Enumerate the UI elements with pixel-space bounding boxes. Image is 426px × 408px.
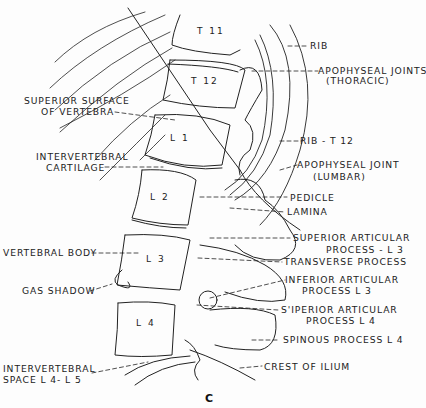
vertebra-label-l4: L 4 <box>136 318 156 328</box>
vertebra-label-t12: T 12 <box>191 76 219 86</box>
label-superior-articular-l4-1: S'IPERIOR ARTICULAR <box>281 305 398 315</box>
vertebra-label-t11: T 11 <box>197 26 225 36</box>
vertebra-label-l3: L 3 <box>146 254 166 264</box>
label-intervertebral-space-2: SPACE L 4- L 5 <box>3 375 82 385</box>
spine-diagram: T 11 T 12 L 1 L 2 L 3 L 4 RIB APOPHYSEAL… <box>0 0 426 408</box>
label-rib-t12: RIB - T 12 <box>300 136 354 146</box>
label-rib: RIB <box>310 41 328 51</box>
label-superior-articular-l3-1: SUPERIOR ARTICULAR <box>293 233 410 243</box>
vertebra-label-l2: L 2 <box>150 192 170 202</box>
label-superior-articular-l4-2: PROCESS L 4 <box>306 316 376 326</box>
label-apophyseal-lumbar-1: APOPHYSEAL JOINT <box>297 160 400 170</box>
label-apophyseal-lumbar-2: (LUMBAR) <box>313 172 366 182</box>
label-spinous-process-l4: SPINOUS PROCESS L 4 <box>283 335 404 345</box>
vertebra-label-l1: L 1 <box>170 133 190 143</box>
label-superior-surface-1: SUPERIOR SURFACE <box>24 96 130 106</box>
label-apophyseal-thoracic-2: (THORACIC) <box>326 76 390 86</box>
panel-letter: C <box>205 392 213 405</box>
spine-line-drawing <box>0 0 426 408</box>
label-intervertebral-space-1: INTERVERTEBRAL <box>3 364 95 374</box>
label-inferior-articular-l3-1: INFERIOR ARTICULAR <box>285 275 399 285</box>
label-gas-shadow: GAS SHADOW <box>22 286 96 296</box>
label-pedicle: PEDICLE <box>290 193 335 203</box>
label-lamina: LAMINA <box>287 207 328 217</box>
label-superior-articular-l3-2: PROCESS - L 3 <box>326 245 404 255</box>
label-intervertebral-cartilage-1: INTERVERTEBRAL <box>36 152 128 162</box>
label-inferior-articular-l3-2: PROCESS L 3 <box>302 286 372 296</box>
label-vertebral-body: VERTEBRAL BODY <box>3 248 97 258</box>
label-intervertebral-cartilage-2: CARTILAGE <box>46 163 105 173</box>
label-crest-of-ilium: CREST OF ILIUM <box>264 362 350 372</box>
label-superior-surface-2: OF VERTEBRA <box>41 107 114 117</box>
label-transverse-process: TRANSVERSE PROCESS <box>284 257 407 267</box>
